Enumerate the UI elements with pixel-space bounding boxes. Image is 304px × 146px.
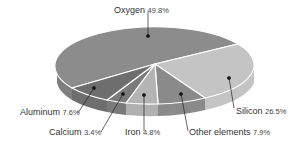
label-iron: Iron 4.8% <box>125 127 160 137</box>
pie-chart <box>0 0 304 146</box>
label-silicon: Silicon 26.5% <box>236 106 286 116</box>
label-other-elements: Other elements 7.9% <box>189 127 270 137</box>
label-aluminum: Aluminum 7.6% <box>20 107 80 117</box>
label-calcium: Calcium 3.4% <box>49 127 101 137</box>
pie-top <box>55 27 254 104</box>
label-oxygen: Oxygen 49.8% <box>114 5 169 15</box>
